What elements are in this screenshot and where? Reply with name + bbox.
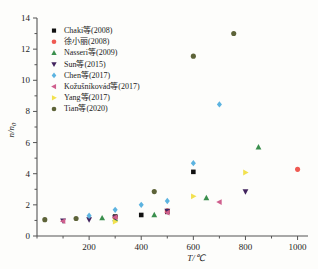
marker-diamond [52, 73, 57, 79]
legend-item-6[interactable]: Yang等(2017) [52, 92, 110, 102]
data-point [191, 54, 196, 59]
legend-label: Sun等(2015) [64, 59, 106, 69]
marker-triangle-right [243, 170, 248, 176]
data-point [203, 195, 209, 200]
x-axis-title: T/℃ [187, 253, 206, 263]
marker-triangle-left [51, 84, 56, 89]
legend-item-7[interactable]: Tian等(2020) [52, 103, 108, 113]
marker-circle [52, 39, 57, 44]
legend-marker [52, 107, 57, 112]
marker-diamond [139, 202, 144, 208]
series-4 [87, 101, 222, 219]
y-tick-label: 4 [26, 169, 31, 179]
series-1 [113, 167, 301, 220]
data-point [191, 170, 196, 175]
marker-square [52, 29, 56, 33]
legend-marker [51, 50, 56, 55]
data-point [243, 189, 249, 194]
marker-circle [191, 54, 196, 59]
y-tick-label: 2 [26, 200, 31, 210]
data-point [113, 207, 118, 213]
y-axis-ticks: 02468101214 [21, 13, 37, 241]
marker-circle [74, 216, 79, 221]
data-point [74, 216, 79, 221]
data-point [42, 217, 47, 222]
data-point [191, 160, 196, 166]
legend-label: Nasseri等(2009) [64, 47, 118, 57]
legend-marker [52, 39, 57, 44]
legend-item-2[interactable]: Nasseri等(2009) [51, 47, 117, 57]
y-tick-label: 10 [21, 75, 31, 85]
series-3 [60, 189, 248, 224]
marker-circle [295, 167, 300, 172]
legend-item-3[interactable]: Sun等(2015) [51, 59, 106, 69]
x-tick-label: 400 [134, 242, 148, 252]
marker-triangle-up [51, 50, 56, 55]
chart-figure: 02468101214 2004006008001000 T/℃ n/n0 Ch… [0, 0, 318, 269]
marker-square [139, 213, 144, 218]
data-point [256, 144, 262, 149]
marker-diamond [217, 101, 222, 107]
y-tick-label: 12 [21, 44, 30, 54]
y-tick-label: 6 [26, 138, 31, 148]
marker-circle [231, 31, 236, 36]
scatter-plot: 02468101214 2004006008001000 T/℃ n/n0 Ch… [0, 0, 318, 269]
y-tick-label: 14 [21, 13, 31, 23]
marker-circle [42, 217, 47, 222]
legend-marker [51, 84, 56, 89]
marker-triangle-up [203, 195, 209, 200]
legend-marker [51, 62, 56, 67]
marker-triangle-down [51, 62, 56, 67]
data-point [165, 198, 170, 204]
series-0 [113, 170, 196, 219]
data-point [217, 101, 222, 107]
legend-marker [52, 73, 57, 79]
x-tick-label: 600 [187, 242, 201, 252]
x-tick-label: 1000 [289, 242, 308, 252]
data-point [139, 202, 144, 208]
legend-item-4[interactable]: Chen等(2017) [52, 70, 111, 80]
marker-diamond [113, 207, 118, 213]
series-2 [99, 144, 261, 221]
series-6 [113, 170, 249, 225]
legend-item-5[interactable]: Kožušníkovád等(2017) [51, 81, 140, 91]
legend-item-1[interactable]: 徐小丽(2008) [52, 36, 110, 46]
marker-circle [52, 107, 57, 112]
data-point [295, 167, 300, 172]
marker-triangle-right [52, 95, 57, 100]
marker-square [191, 170, 196, 175]
marker-triangle-up [99, 215, 105, 220]
legend-label: Chaki等(2008) [64, 25, 113, 35]
legend-label: Chen等(2017) [64, 70, 111, 80]
marker-circle [152, 189, 157, 194]
data-point [231, 31, 236, 36]
chart-legend: Chaki等(2008)徐小丽(2008)Nasseri等(2009)Sun等(… [51, 25, 140, 113]
y-tick-label: 0 [26, 231, 31, 241]
data-point [216, 199, 221, 205]
data-point [191, 193, 196, 199]
data-point [151, 212, 157, 217]
y-axis-title: n/n0 [6, 122, 17, 138]
x-axis-ticks: 2004006008001000 [37, 236, 307, 252]
legend-marker [52, 95, 57, 100]
data-point [152, 189, 157, 194]
legend-label: Tian等(2020) [64, 103, 108, 113]
legend-marker [52, 29, 56, 33]
marker-triangle-right [191, 193, 196, 199]
data-point [243, 170, 248, 176]
legend-item-0[interactable]: Chaki等(2008) [52, 25, 113, 35]
marker-triangle-down [243, 189, 249, 194]
legend-label: Yang等(2017) [64, 92, 110, 102]
y-tick-label: 8 [26, 106, 31, 116]
data-point [139, 213, 144, 218]
data-point [99, 215, 105, 220]
marker-diamond [165, 198, 170, 204]
marker-triangle-up [256, 144, 262, 149]
x-tick-label: 200 [82, 242, 96, 252]
marker-diamond [191, 160, 196, 166]
marker-triangle-up [151, 212, 157, 217]
x-tick-label: 800 [239, 242, 253, 252]
marker-triangle-left [216, 199, 221, 205]
legend-label: 徐小丽(2008) [64, 36, 110, 46]
legend-label: Kožušníkovád等(2017) [64, 81, 140, 91]
